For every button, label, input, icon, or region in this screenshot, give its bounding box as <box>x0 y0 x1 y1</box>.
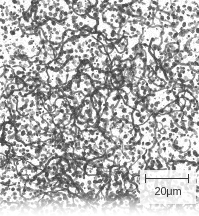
scale-bar-rule <box>145 174 189 183</box>
scale-bar: 20μm <box>143 169 193 203</box>
scale-bar-line <box>145 178 189 179</box>
scale-bar-cap-left <box>145 174 146 183</box>
micrograph-figure: 20μm <box>0 0 199 216</box>
scale-bar-label: 20μm <box>143 185 193 198</box>
scale-bar-cap-right <box>188 174 189 183</box>
